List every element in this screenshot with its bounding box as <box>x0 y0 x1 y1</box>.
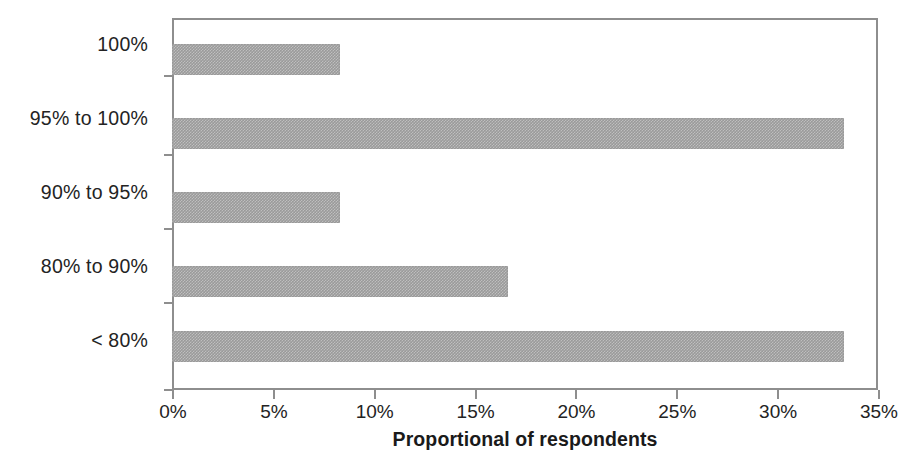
y-axis-label-95-to-100: 95% to 100% <box>30 105 148 131</box>
x-axis-label-25: 25% <box>658 401 696 423</box>
bar-100 <box>172 44 340 75</box>
bar-80-to-90 <box>172 266 508 297</box>
x-axis-title: Proportional of respondents <box>172 428 878 451</box>
bar-under-80 <box>172 331 844 362</box>
y-axis-label-90-to-95: 90% to 95% <box>41 179 148 205</box>
y-axis-label-80-to-90: 80% to 90% <box>41 253 148 279</box>
x-axis-label-10: 10% <box>356 401 394 423</box>
x-axis-label-0: 0% <box>159 401 186 423</box>
x-axis-tick-0 <box>172 390 174 399</box>
x-axis-label-5: 5% <box>260 401 287 423</box>
y-axis-label-under-80: < 80% <box>91 327 148 353</box>
x-axis-tick-20 <box>575 390 577 399</box>
bar-90-to-95 <box>172 192 340 223</box>
bar-chart: 100% 95% to 100% 90% to 95% 80% to 90% <… <box>0 0 922 471</box>
bar-95-to-100 <box>172 118 844 149</box>
x-axis-label-35: 35% <box>860 401 898 423</box>
x-axis-label-20: 20% <box>557 401 595 423</box>
x-axis-tick-25 <box>676 390 678 399</box>
x-axis-tick-5 <box>273 390 275 399</box>
plot-area <box>172 18 878 390</box>
x-axis-tick-30 <box>777 390 779 399</box>
x-axis-label-15: 15% <box>457 401 495 423</box>
x-axis-tick-35 <box>878 390 880 399</box>
x-axis-label-30: 30% <box>759 401 797 423</box>
y-axis-label-100: 100% <box>97 31 148 57</box>
y-axis-category-labels: 100% 95% to 100% 90% to 95% 80% to 90% <… <box>0 18 160 390</box>
x-axis-tick-15 <box>475 390 477 399</box>
x-axis-tick-10 <box>374 390 376 399</box>
